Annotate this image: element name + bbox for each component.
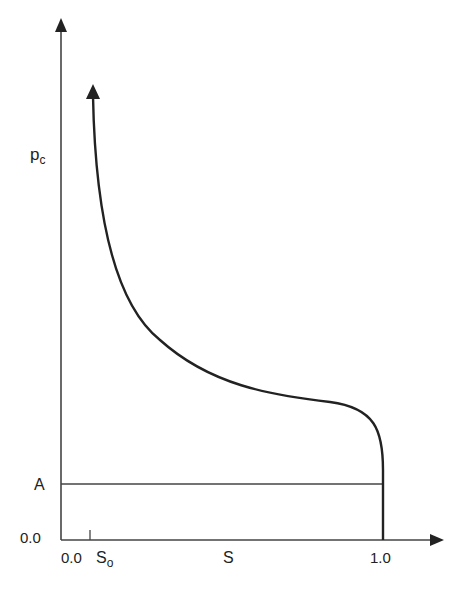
x-axis-arrow-icon	[430, 534, 444, 546]
x-tick-one: 1.0	[370, 549, 391, 566]
capillary-pressure-diagram: pc A 0.0 0.0 So S 1.0	[0, 0, 461, 600]
x-axis-label: S	[223, 549, 234, 566]
pc-curve	[93, 96, 383, 540]
x-tick-zero: 0.0	[61, 549, 82, 566]
y-axis-arrow-icon	[55, 18, 67, 32]
y-tick-a: A	[34, 476, 45, 493]
y-axis-label: pc	[30, 145, 45, 167]
y-tick-zero: 0.0	[20, 529, 41, 546]
x-tick-so: So	[96, 549, 114, 570]
curve-arrow-icon	[86, 84, 100, 99]
